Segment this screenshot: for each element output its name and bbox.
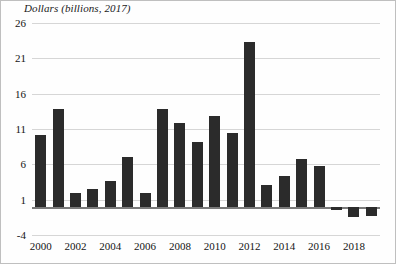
bar [261,185,272,207]
x-tick-label: 2004 [99,240,121,252]
bar [331,207,342,210]
bar [87,189,98,207]
x-tick-label: 2014 [273,240,295,252]
bar [366,207,377,216]
x-axis-tick-labels: 2000200220042006200820102012201420162018 [32,238,380,258]
y-tick-label: 11 [15,123,26,135]
x-tick-label: 2012 [239,240,261,252]
bar [140,193,151,206]
bar [348,207,359,217]
bar-series [32,23,380,235]
x-tick-label: 2010 [204,240,226,252]
x-tick-label: 2008 [169,240,191,252]
x-tick-label: 2000 [30,240,52,252]
x-tick-label: 2006 [134,240,156,252]
bar [105,181,116,206]
x-tick-label: 2002 [65,240,87,252]
bar [174,123,185,206]
bar [192,142,203,207]
bar [209,116,220,206]
bar [122,157,133,206]
bar-chart: Dollars (billions, 2017) -41611162126 20… [0,0,396,264]
y-tick-label: 21 [15,52,26,64]
bar [279,176,290,206]
gridline [32,235,380,236]
x-tick-label: 2016 [308,240,330,252]
y-tick-label: 6 [21,158,27,170]
y-tick-label: 26 [15,17,26,29]
bar [296,159,307,206]
bar [227,133,238,207]
bar [157,109,168,207]
bar [244,42,255,207]
y-tick-label: -4 [17,229,26,241]
bar [35,135,46,207]
y-tick-label: 1 [21,194,27,206]
y-tick-label: 16 [15,88,26,100]
bar [70,193,81,206]
bar [314,166,325,206]
y-axis-tick-labels: -41611162126 [0,23,28,235]
y-axis-title: Dollars (billions, 2017) [24,2,131,14]
x-tick-label: 2018 [343,240,365,252]
plot-area [32,23,380,235]
bar [53,109,64,207]
